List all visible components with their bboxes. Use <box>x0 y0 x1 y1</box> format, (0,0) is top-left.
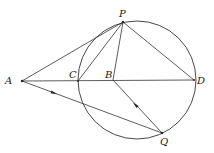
segment-PD <box>123 22 194 80</box>
label-C: C <box>69 70 77 80</box>
segment-AD <box>22 80 194 81</box>
segment-AQ <box>22 81 162 133</box>
label-A: A <box>5 76 12 86</box>
geometry-diagram: A C B D P Q <box>0 0 214 153</box>
segment-CP <box>78 22 123 81</box>
point-C-dot <box>77 80 79 82</box>
label-Q: Q <box>160 137 168 147</box>
arrow-on-AQ-icon <box>51 91 57 95</box>
label-D: D <box>197 76 205 86</box>
label-B: B <box>105 70 112 80</box>
point-D-dot <box>193 79 195 81</box>
point-A-dot <box>21 80 23 82</box>
label-P: P <box>119 9 126 19</box>
segment-BP <box>113 22 123 80</box>
point-P-dot <box>122 21 124 23</box>
point-Q-dot <box>161 132 163 134</box>
